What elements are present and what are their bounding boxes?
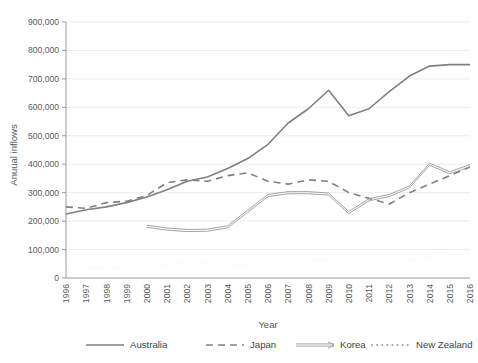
y-axis-label: Anuual inflows [8,124,19,186]
line-chart: 0100,000200,000300,000400,000500,000600,… [0,0,478,363]
chart-legend: AustraliaJapanKoreaNew Zealand [86,339,473,350]
x-tick-label: 1999 [122,284,132,303]
x-tick-label: 2013 [405,284,415,303]
gridlines [66,22,470,250]
y-tick-label: 800,000 [28,45,59,55]
x-tick-label: 2005 [243,284,253,303]
x-tick-label: 2008 [304,284,314,303]
x-tick-label: 2014 [425,284,435,303]
y-tick-label: 500,000 [28,131,59,141]
x-tick-label: 2003 [203,284,213,303]
series-line-australia [66,65,470,214]
x-tick-label: 2000 [142,284,152,303]
series-line-korea [147,163,470,229]
legend-item-new-zealand: New Zealand [372,339,473,350]
legend-swatch-korea [328,345,334,348]
y-tick-label: 400,000 [28,159,59,169]
legend-swatch-korea [328,342,334,345]
legend-label-australia: Australia [130,339,168,350]
legend-item-japan: Japan [206,339,276,350]
chart-canvas: 0100,000200,000300,000400,000500,000600,… [0,0,478,363]
x-tick-label: 2002 [182,284,192,303]
x-tick-label: 2009 [324,284,334,303]
x-tick-label: 2004 [223,284,233,303]
x-tick-label: 2015 [445,284,455,303]
legend-label-japan: Japan [250,339,276,350]
y-tick-marks [62,22,66,278]
x-tick-label: 2010 [344,284,354,303]
data-series-group [66,65,470,268]
x-tick-label: 2006 [263,284,273,303]
x-tick-label: 2007 [283,284,293,303]
y-tick-labels: 0100,000200,000300,000400,000500,000600,… [28,17,59,283]
x-tick-label: 1996 [61,284,71,303]
x-tick-label: 1997 [81,284,91,303]
x-tick-label: 1998 [102,284,112,303]
x-tick-label: 2012 [384,284,394,303]
y-tick-label: 100,000 [28,245,59,255]
y-tick-label: 900,000 [28,17,59,27]
x-tick-label: 2016 [465,284,475,303]
x-tick-label: 2011 [364,284,374,303]
y-tick-label: 600,000 [28,102,59,112]
legend-item-korea: Korea [296,339,366,350]
series-line-new-zealand [66,252,470,268]
y-tick-label: 700,000 [28,74,59,84]
y-tick-label: 200,000 [28,216,59,226]
x-tick-label: 2001 [162,284,172,303]
y-tick-label: 0 [54,273,59,283]
axis-lines [66,22,470,278]
y-tick-label: 300,000 [28,188,59,198]
legend-label-new-zealand: New Zealand [416,339,473,350]
legend-label-korea: Korea [340,339,366,350]
x-tick-labels: 1996199719981999200020012002200320042005… [61,284,475,303]
x-axis-label: Year [258,319,277,330]
legend-item-australia: Australia [86,339,168,350]
